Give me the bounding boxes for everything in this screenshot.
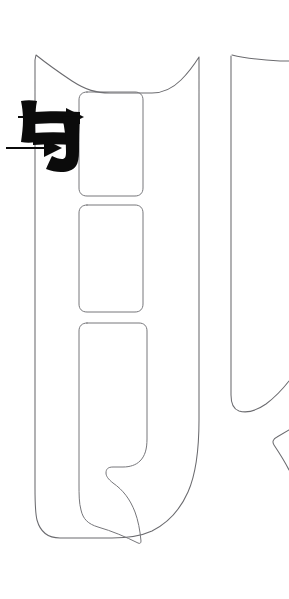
main-pillar-panel-outline (35, 55, 199, 538)
middle-rectangular-cutout (79, 205, 143, 312)
adjacent-panel-left-edge (231, 56, 289, 412)
figure-root: Vehicle pillar trim panel outline drawin… (0, 0, 289, 599)
adjacent-panel-outline-cropped (232, 55, 289, 61)
upper-rectangular-cutout (79, 92, 143, 196)
lower-hooked-cutout (79, 323, 147, 543)
line-art-canvas (0, 0, 289, 599)
adjacent-panel-notch (273, 430, 289, 470)
